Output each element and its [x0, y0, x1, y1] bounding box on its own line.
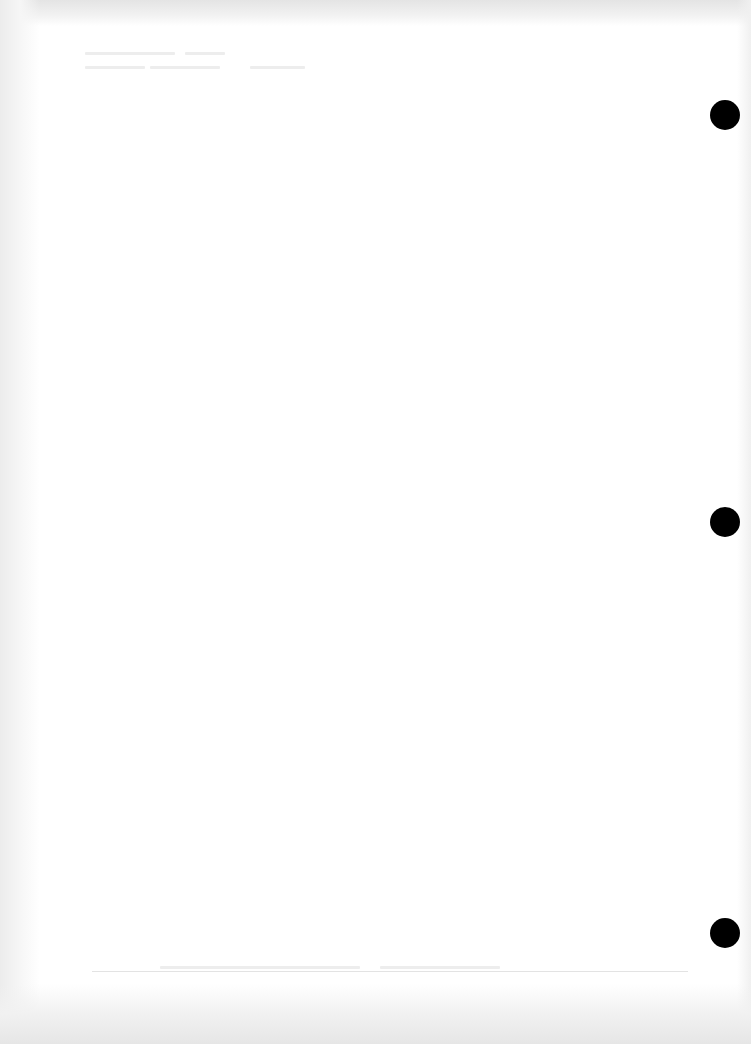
bleed-through-line [160, 966, 360, 969]
bleed-through-line [250, 66, 305, 69]
punch-hole-top [710, 100, 740, 130]
bleed-through-line [380, 966, 500, 969]
scan-border-top [0, 0, 751, 26]
footer-rule [92, 971, 688, 972]
bleed-through-line [150, 66, 220, 69]
punch-hole-middle [710, 507, 740, 537]
bleed-through-line [185, 52, 225, 55]
scan-border-left [0, 0, 40, 1044]
punch-hole-bottom [710, 918, 740, 948]
bleed-through-line [85, 66, 145, 69]
scanned-page: No legible content; only faint show-thro… [0, 0, 751, 1044]
scan-border-bottom [0, 984, 751, 1044]
bleed-through-line [85, 52, 175, 55]
